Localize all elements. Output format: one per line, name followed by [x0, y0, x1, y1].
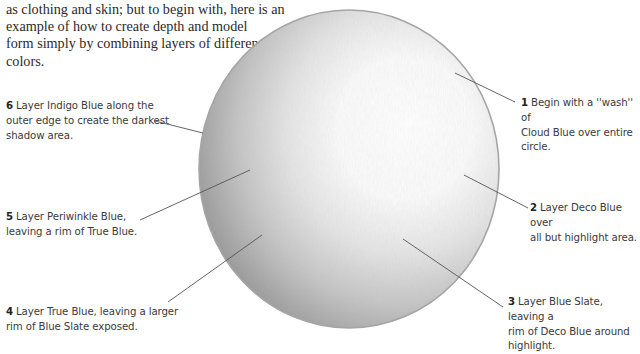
step-5-caption: 5Layer Periwinkle Blue, leaving a rim of… [6, 210, 137, 240]
step-4-caption: 4Layer True Blue, leaving a larger rim o… [6, 305, 178, 335]
step-number: 6 [6, 100, 13, 111]
step-6-caption: 6Layer Indigo Blue along the outer edge … [6, 99, 169, 143]
step-number: 4 [6, 306, 13, 317]
step-2-caption: 2Layer Deco Blue over all but highlight … [530, 201, 640, 245]
step-3-caption: 3Layer Blue Slate, leaving a rim of Deco… [508, 295, 640, 354]
step-number: 2 [530, 202, 537, 213]
step-number: 1 [521, 97, 528, 108]
step-number: 3 [508, 296, 515, 307]
step-1-caption: 1Begin with a ''wash'' of Cloud Blue ove… [521, 96, 640, 155]
sphere [199, 10, 499, 328]
step-number: 5 [6, 211, 13, 222]
